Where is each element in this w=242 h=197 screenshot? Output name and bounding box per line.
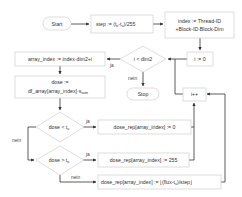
rep-scaled-node: dose_rep[array_index] := ⌊(flux-tu)/step…: [98, 175, 221, 189]
rep-max-node: dose_rep[array_index] := 255: [98, 153, 189, 167]
edge-label-nein-3: nein: [71, 175, 80, 180]
array-index-node: array_index := index·dim2+i: [15, 52, 105, 66]
i-init-label: i := 0: [194, 56, 206, 62]
dose-node: dose := df_array[array_index]·ssum: [15, 76, 105, 98]
cond-high-node: dose > to: [36, 146, 84, 175]
start-node: Start: [43, 17, 71, 30]
edge-label-ja-3: ja: [85, 152, 90, 157]
array-index-label: array_index := index·dim2+i: [28, 56, 92, 62]
cond-i-node: i < dim2: [120, 46, 166, 72]
edge-low-high: [28, 127, 36, 160]
cond-i-label: i < dim2: [134, 56, 152, 62]
index-label-line1: index := Thread-ID: [178, 18, 221, 24]
rep-zero-label: dose_rep[array_index] := 0: [114, 124, 176, 130]
edge-label-ja-1: ja: [109, 63, 114, 68]
rep-zero-node: dose_rep[array_index] := 0: [98, 120, 191, 134]
edge-zero-inc: [191, 103, 194, 127]
edge-label-nein-2: nein: [12, 138, 21, 143]
edge-inc-cond: [175, 59, 183, 94]
i-inc-label: i++: [191, 91, 198, 97]
stop-label: Stop: [138, 91, 149, 97]
stop-node: Stop: [127, 88, 159, 100]
i-inc-node: i++: [183, 88, 206, 101]
index-label-line2: +Block-ID·Block-Dim: [176, 26, 224, 32]
step-node: step := (to-tu)/255: [91, 15, 153, 33]
start-label: Start: [52, 21, 64, 27]
dose-label-line1: dose :=: [51, 79, 68, 85]
edge-label-nein-1: nein: [128, 76, 137, 81]
i-init-node: i := 0: [187, 52, 213, 66]
edge-scaled-inc: [207, 94, 225, 182]
cond-low-node: dose < tu: [36, 112, 84, 142]
flowchart: Start step := (to-tu)/255 index := Threa…: [0, 0, 242, 197]
index-node: index := Thread-ID +Block-ID·Block-Dim: [165, 12, 234, 38]
edge-label-ja-2: ja: [85, 119, 90, 124]
rep-max-label: dose_rep[array_index] := 255: [110, 157, 178, 163]
